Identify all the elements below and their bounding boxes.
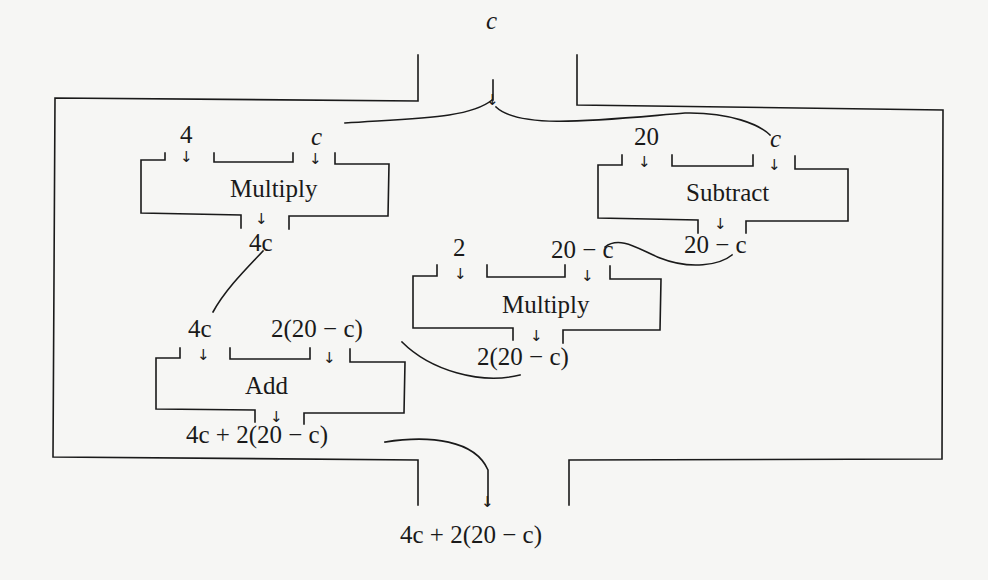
multiply2-left-arrow-icon: ↓ bbox=[454, 267, 467, 282]
add-title: Add bbox=[245, 373, 288, 398]
input-label: c bbox=[486, 8, 497, 33]
add-left-arrow-icon: ↓ bbox=[197, 348, 210, 363]
multiply2-input-left: 2 bbox=[453, 235, 466, 260]
connector-input-to-multiply1 bbox=[345, 100, 492, 123]
subtract-output: 20 − c bbox=[684, 232, 747, 257]
input-arrow-icon: ↓ bbox=[486, 93, 499, 108]
subtract-frame-top-mid bbox=[672, 155, 753, 166]
multiply1-title: Multiply bbox=[230, 176, 318, 201]
subtract-output-arrow-icon: ↓ bbox=[714, 217, 727, 232]
multiply1-output-arrow-icon: ↓ bbox=[255, 212, 268, 227]
subtract-title: Subtract bbox=[686, 180, 769, 205]
connector-add-to-output bbox=[385, 439, 488, 505]
multiply2-output: 2(20 − c) bbox=[477, 344, 569, 369]
multiply1-input-right: c bbox=[311, 124, 322, 149]
final-output: 4c + 2(20 − c) bbox=[400, 522, 542, 547]
add-input-left: 4c bbox=[188, 316, 212, 341]
subtract-input-right: c bbox=[770, 126, 781, 151]
multiply2-title: Multiply bbox=[502, 292, 590, 317]
add-frame-right bbox=[304, 349, 405, 424]
multiply2-right-arrow-icon: ↓ bbox=[581, 269, 594, 284]
multiply1-output: 4c bbox=[249, 230, 273, 255]
subtract-right-arrow-icon: ↓ bbox=[768, 158, 781, 173]
connector-input-to-subtract bbox=[496, 107, 770, 135]
output-arrow-icon: ↓ bbox=[481, 495, 494, 510]
outer-frame-top-right bbox=[569, 55, 943, 505]
multiply2-frame-top-mid bbox=[487, 265, 565, 277]
add-input-right: 2(20 − c) bbox=[271, 316, 363, 341]
multiply1-input-left: 4 bbox=[180, 122, 193, 147]
add-right-arrow-icon: ↓ bbox=[323, 351, 336, 366]
add-output: 4c + 2(20 − c) bbox=[186, 422, 328, 447]
diagram-lines bbox=[0, 0, 988, 580]
add-frame-top-mid bbox=[230, 348, 310, 359]
multiply1-frame-top-mid bbox=[214, 153, 293, 162]
multiply1-left-arrow-icon: ↓ bbox=[180, 150, 193, 165]
connector-multiply1-to-add bbox=[213, 251, 263, 312]
subtract-input-left: 20 bbox=[634, 124, 659, 149]
multiply2-input-right: 20 − c bbox=[551, 237, 614, 262]
subtract-left-arrow-icon: ↓ bbox=[638, 155, 651, 170]
multiply1-right-arrow-icon: ↓ bbox=[309, 152, 322, 167]
multiply2-output-arrow-icon: ↓ bbox=[530, 329, 543, 344]
